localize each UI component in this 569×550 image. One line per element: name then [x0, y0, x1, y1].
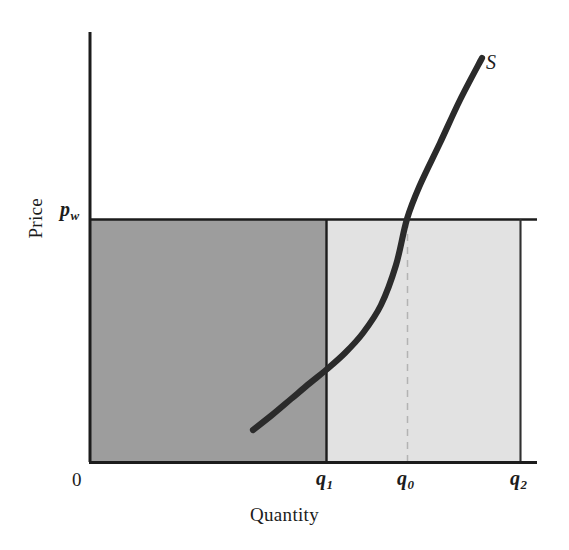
tick-q2-base: q [510, 467, 520, 489]
tick-q1-base: q [316, 467, 326, 489]
x-axis-tick-origin: 0 [72, 470, 82, 489]
x-axis-tick-q1: q1 [316, 468, 333, 488]
domestic-supply-region [89, 219, 326, 462]
y-axis-tick-price-level: pw [60, 199, 79, 219]
tick-q0-subscript: 0 [408, 477, 415, 492]
tick-q2-subscript: 2 [521, 477, 528, 492]
supply-diagram-figure: Price Quantity 0 q1 q0 q2 pw S [0, 0, 569, 550]
x-axis-tick-q2: q2 [510, 468, 527, 488]
supply-curve-label: S [486, 52, 496, 72]
y-axis-title: Price [26, 198, 45, 239]
x-axis-tick-q0: q0 [397, 468, 414, 488]
x-axis-title: Quantity [0, 505, 569, 524]
tick-q0-base: q [397, 467, 407, 489]
tick-q1-subscript: 1 [327, 477, 334, 492]
price-level-subscript: w [71, 208, 80, 223]
plot-canvas [0, 0, 569, 550]
price-level-base: p [60, 198, 70, 220]
